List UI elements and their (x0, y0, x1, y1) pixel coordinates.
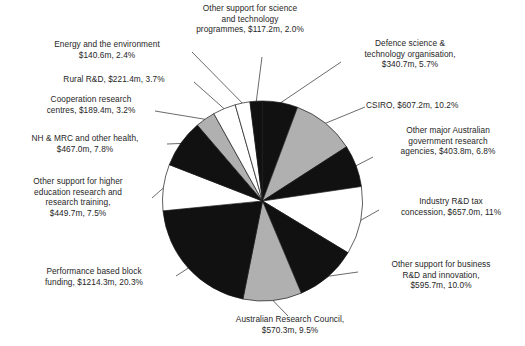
leader-line (167, 143, 181, 144)
leader-line (256, 57, 262, 102)
leader-line (155, 111, 206, 119)
leader-line (176, 268, 189, 276)
leader-line (192, 52, 243, 104)
pie-chart-figure: Other support for science and technology… (0, 0, 525, 346)
leader-line (152, 187, 164, 198)
leader-line (194, 82, 224, 109)
leader-line (356, 157, 373, 166)
leader-line (325, 107, 365, 124)
leader-line (280, 62, 341, 103)
pie-chart-canvas (0, 0, 525, 346)
pie-sectors-group (163, 101, 363, 301)
leader-line (360, 210, 379, 221)
leader-line (272, 300, 288, 316)
